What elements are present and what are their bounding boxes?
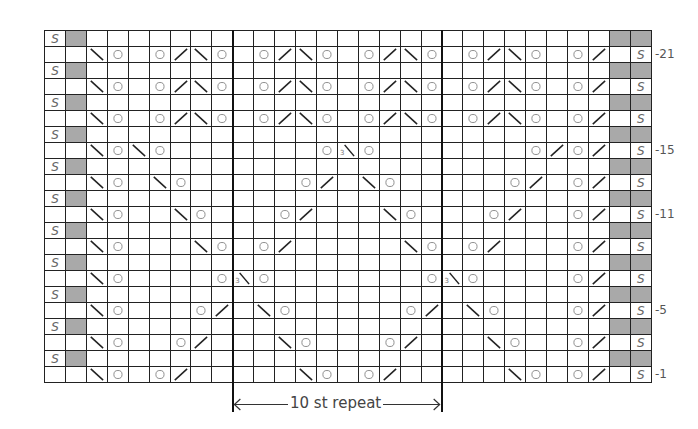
- repeat-label: 10 st repeat: [288, 394, 383, 412]
- arrowheads-icon: [0, 0, 698, 429]
